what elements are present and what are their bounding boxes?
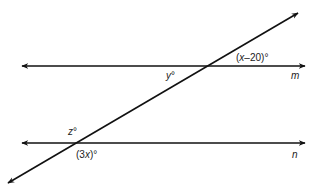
- transversal-line: [8, 13, 298, 183]
- angle-label-x-minus-20: (x–20)°: [236, 52, 268, 63]
- angle-label-z: z°: [67, 126, 77, 137]
- parallel-lines-diagram: (x–20)° m y° z° (3x)° n: [0, 0, 314, 190]
- angle-label-3x: (3x)°: [76, 149, 97, 160]
- line-label-n: n: [292, 149, 298, 160]
- line-label-m: m: [291, 70, 299, 81]
- angle-label-y: y°: [165, 70, 175, 81]
